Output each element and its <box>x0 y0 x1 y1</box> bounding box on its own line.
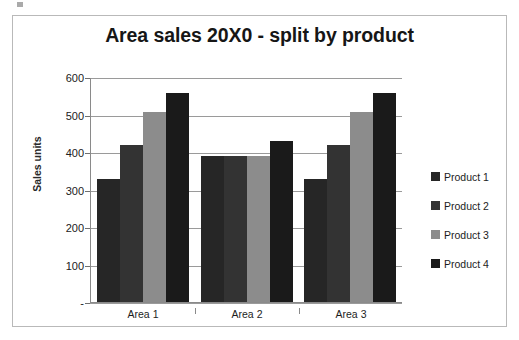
legend-item[interactable]: Product 2 <box>431 191 511 220</box>
bar[interactable] <box>247 156 270 302</box>
chart-title: Area sales 20X0 - split by product <box>13 24 506 47</box>
x-axis-category-label: Area 3 <box>299 308 403 320</box>
chart-legend: Product 1Product 2Product 3Product 4 <box>431 162 511 278</box>
bar[interactable] <box>270 141 293 302</box>
y-axis-tick-mark <box>85 303 90 304</box>
legend-swatch-icon <box>431 259 440 268</box>
y-axis-tick-label: 600 <box>66 72 84 84</box>
x-axis-separator-tick <box>195 308 196 314</box>
bar-groups <box>91 78 402 302</box>
legend-swatch-icon <box>431 172 440 181</box>
y-axis-title: Sales units <box>31 124 43 204</box>
y-axis-tick-label: - <box>80 297 84 309</box>
bar-group <box>298 78 402 302</box>
bar[interactable] <box>97 179 120 302</box>
legend-swatch-icon <box>431 201 440 210</box>
x-axis-category-labels: Area 1Area 2Area 3 <box>91 308 403 320</box>
y-axis-tick-label: 400 <box>66 147 84 159</box>
y-axis-tick-label: 300 <box>66 185 84 197</box>
bar[interactable] <box>201 156 224 302</box>
bar[interactable] <box>327 145 350 302</box>
y-axis-tick-label: 200 <box>66 222 84 234</box>
legend-swatch-icon <box>431 230 440 239</box>
scan-artifact <box>17 2 23 7</box>
bar[interactable] <box>350 112 373 302</box>
bar[interactable] <box>224 156 247 302</box>
x-axis-category-label: Area 2 <box>195 308 299 320</box>
bar[interactable] <box>143 112 166 302</box>
x-axis-separator-tick <box>299 308 300 314</box>
legend-item[interactable]: Product 4 <box>431 249 511 278</box>
y-axis-tick-label: 500 <box>66 110 84 122</box>
chart-container: Area sales 20X0 - split by product Sales… <box>12 15 507 327</box>
bar-group <box>195 78 299 302</box>
legend-item[interactable]: Product 3 <box>431 220 511 249</box>
legend-label: Product 4 <box>444 258 489 270</box>
plot-area <box>90 78 402 303</box>
bar[interactable] <box>373 93 396 302</box>
bar[interactable] <box>120 145 143 302</box>
legend-item[interactable]: Product 1 <box>431 162 511 191</box>
legend-label: Product 2 <box>444 200 489 212</box>
bar[interactable] <box>304 179 327 302</box>
bar-group <box>91 78 195 302</box>
legend-label: Product 1 <box>444 171 489 183</box>
legend-label: Product 3 <box>444 229 489 241</box>
gridline <box>90 303 402 304</box>
x-axis-category-label: Area 1 <box>91 308 195 320</box>
y-axis-tick-label: 100 <box>66 260 84 272</box>
x-axis-line <box>90 302 402 303</box>
bar[interactable] <box>166 93 189 302</box>
y-axis-tick-labels: 600500400300200100- <box>43 78 89 303</box>
